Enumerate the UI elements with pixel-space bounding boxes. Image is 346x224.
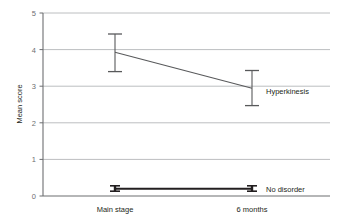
y-tick-label-4: 4 — [32, 46, 36, 55]
x-category-label-main-stage: Main stage — [97, 205, 134, 214]
series-label-no-disorder: No disorder — [266, 185, 305, 194]
y-tick-label-2: 2 — [32, 119, 36, 128]
chart-container: 5 4 3 2 1 0 Mean score — [0, 0, 346, 224]
hyperkinesis-errorbar-main-stage — [108, 34, 122, 72]
y-tick-label-5: 5 — [32, 9, 36, 18]
axes — [43, 13, 330, 196]
hyperkinesis-errorbar-6-months — [245, 71, 259, 106]
series-no-disorder — [110, 186, 257, 191]
series-label-hyperkinesis: Hyperkinesis — [266, 87, 309, 96]
y-axis-title: Mean score — [15, 84, 24, 123]
line-chart: 5 4 3 2 1 0 Mean score — [0, 0, 346, 224]
series-hyperkinesis — [108, 34, 259, 106]
y-tick-label-0: 0 — [32, 192, 36, 201]
y-tick-label-3: 3 — [32, 82, 36, 91]
hyperkinesis-line-segment — [115, 52, 252, 88]
y-tick-label-1: 1 — [32, 155, 36, 164]
x-category-label-6-months: 6 months — [237, 205, 268, 214]
